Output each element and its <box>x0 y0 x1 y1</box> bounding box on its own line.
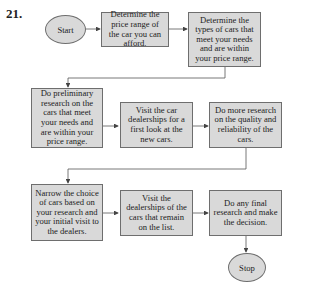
start-label: Start <box>57 25 73 35</box>
step-4-text: Visit the car dealerships for a first lo… <box>124 106 189 144</box>
step-1-text: Determine the price range of the car you… <box>105 10 165 48</box>
stop-label: Stop <box>239 263 255 273</box>
step-2-box: Determine the types of cars that meet yo… <box>188 12 261 67</box>
step-5-box: Do more research on the quality and reli… <box>209 102 282 148</box>
step-3-box: Do preliminary research on the cars that… <box>31 88 103 148</box>
step-7-box: Visit the dealerships of the cars that r… <box>120 190 193 236</box>
stop-node: Stop <box>228 253 266 282</box>
step-8-text: Do any final research and make the decis… <box>213 199 278 228</box>
step-2-text: Determine the types of cars that meet yo… <box>192 16 257 64</box>
step-3-text: Do preliminary research on the cars that… <box>35 89 99 147</box>
step-7-text: Visit the dealerships of the cars that r… <box>124 194 189 232</box>
start-node: Start <box>45 15 86 44</box>
step-4-box: Visit the car dealerships for a first lo… <box>120 102 193 148</box>
step-6-box: Narrow the choice of cars based on your … <box>31 184 103 241</box>
step-1-box: Determine the price range of the car you… <box>101 12 169 47</box>
step-5-text: Do more research on the quality and reli… <box>213 106 278 144</box>
step-8-box: Do any final research and make the decis… <box>209 190 282 236</box>
step-6-text: Narrow the choice of cars based on your … <box>35 189 99 237</box>
